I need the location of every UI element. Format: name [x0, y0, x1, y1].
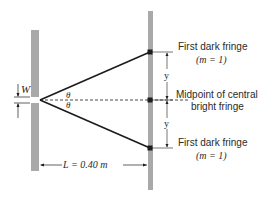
fringe-label-middle-line1: Midpoint of central: [176, 89, 258, 100]
distance-label-text: L = 0.40 m: [63, 159, 107, 170]
slit-screen-lower: [31, 103, 39, 171]
w-arrowhead-up: [17, 103, 20, 107]
ray-upper: [40, 52, 150, 100]
distance-label: L = 0.40 m: [63, 159, 107, 170]
l-arrowhead-left: [40, 164, 44, 167]
y-label-lower: y: [164, 118, 169, 129]
y-lower-arrowhead-top: [166, 101, 169, 105]
slit-screen-upper: [31, 30, 39, 97]
slit-width-label: W: [21, 84, 30, 95]
fringe-label-bottom-line1: First dark fringe: [178, 137, 247, 148]
y-lower-arrowhead-bottom: [166, 144, 169, 148]
fringe-marker-bottom: [148, 146, 153, 151]
fringe-label-bottom-line2: (m = 1): [196, 150, 227, 161]
fringe-label-top-line2: (m = 1): [196, 54, 227, 65]
ray-lower: [40, 100, 150, 148]
fringe-marker-middle: [148, 98, 153, 103]
theta-lower-label: θ: [66, 100, 70, 111]
fringe-label-top-line1: First dark fringe: [178, 41, 247, 52]
diffraction-diagram: W θ θ L = 0.40 m y y First dark fringe (…: [0, 0, 272, 201]
w-arrowhead-down: [17, 93, 20, 97]
y-upper-arrowhead-bottom: [166, 96, 169, 100]
fringe-label-middle-line2: bright fringe: [191, 101, 244, 112]
l-arrowhead-right: [143, 164, 147, 167]
y-upper-arrowhead-top: [166, 53, 169, 57]
y-label-upper: y: [164, 70, 169, 81]
fringe-marker-top: [148, 50, 153, 55]
